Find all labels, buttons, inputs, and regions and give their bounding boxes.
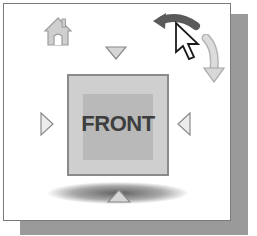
cube-face-label: FRONT [69, 111, 167, 137]
view-above-triangle-button[interactable] [105, 45, 127, 61]
roll-clockwise-arrow-icon[interactable] [200, 34, 228, 86]
mouse-pointer-icon [174, 21, 202, 63]
view-right-triangle-button[interactable] [176, 112, 192, 136]
view-left-triangle-button[interactable] [39, 112, 55, 136]
view-below-triangle-button[interactable] [107, 188, 131, 204]
home-icon[interactable] [43, 15, 73, 47]
viewcube-panel: FRONT [3, 3, 231, 221]
viewcube-front-face[interactable]: FRONT [67, 74, 169, 176]
